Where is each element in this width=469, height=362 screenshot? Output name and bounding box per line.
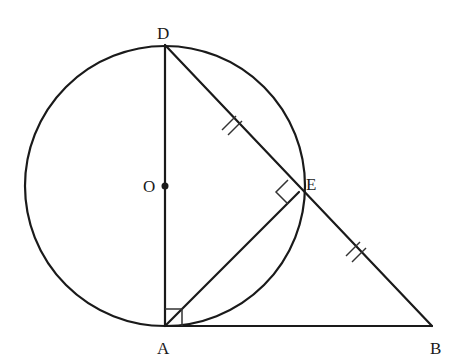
center-point-o xyxy=(162,183,169,190)
equal-tick-eb xyxy=(346,242,366,262)
equal-tick-de xyxy=(222,116,242,135)
label-d: D xyxy=(157,24,169,43)
label-o: O xyxy=(143,177,155,196)
label-a: A xyxy=(157,339,170,358)
segment-db xyxy=(165,45,432,326)
segment-ae xyxy=(165,192,299,326)
geometry-diagram: D O E A B xyxy=(0,0,469,362)
label-b: B xyxy=(430,339,441,358)
label-e: E xyxy=(306,175,316,194)
right-angle-mark-e xyxy=(276,180,288,204)
